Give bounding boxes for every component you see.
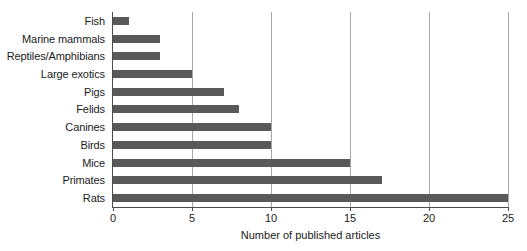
bar-row bbox=[113, 33, 508, 45]
bar-row bbox=[113, 139, 508, 151]
y-axis-label-rats: Rats bbox=[83, 192, 109, 204]
x-tick-label-20: 20 bbox=[423, 212, 435, 225]
bar-felids bbox=[113, 105, 239, 113]
gridline-25 bbox=[508, 12, 509, 207]
x-tick-mark-5 bbox=[192, 207, 193, 211]
bar-mice bbox=[113, 159, 350, 167]
y-axis-label-mice: Mice bbox=[82, 157, 109, 169]
y-axis-label-primates: Primates bbox=[62, 174, 109, 186]
x-tick-label-25: 25 bbox=[502, 212, 514, 225]
bar-row bbox=[113, 86, 508, 98]
bar-chart: Fish Marine mammals Reptiles/Amphibians … bbox=[0, 0, 527, 251]
bar-large-exotics bbox=[113, 70, 192, 78]
x-axis-title: Number of published articles bbox=[113, 229, 508, 242]
x-tick-label-15: 15 bbox=[344, 212, 356, 225]
y-axis-label-reptiles-amphibians: Reptiles/Amphibians bbox=[7, 50, 109, 62]
y-axis-label-canines: Canines bbox=[65, 121, 109, 133]
x-tick-label-0: 0 bbox=[110, 212, 116, 225]
bar-marine-mammals bbox=[113, 35, 160, 43]
bar-primates bbox=[113, 176, 382, 184]
bar-row bbox=[113, 157, 508, 169]
bar-row bbox=[113, 174, 508, 186]
bar-row bbox=[113, 121, 508, 133]
plot-wrapper: Fish Marine mammals Reptiles/Amphibians … bbox=[0, 0, 527, 251]
bar-reptiles-amphibians bbox=[113, 52, 160, 60]
bar-row bbox=[113, 50, 508, 62]
y-axis-label-pigs: Pigs bbox=[84, 86, 109, 98]
bar-birds bbox=[113, 141, 271, 149]
bar-row bbox=[113, 68, 508, 80]
y-axis-label-fish: Fish bbox=[85, 15, 109, 27]
y-axis-label-felids: Felids bbox=[76, 103, 109, 115]
y-axis-label-large-exotics: Large exotics bbox=[41, 68, 109, 80]
bar-fish bbox=[113, 17, 129, 25]
x-tick-mark-25 bbox=[508, 207, 509, 211]
bar-row bbox=[113, 15, 508, 27]
y-axis-label-birds: Birds bbox=[80, 139, 109, 151]
x-tick-mark-10 bbox=[271, 207, 272, 211]
x-tick-mark-0 bbox=[113, 207, 114, 211]
x-tick-label-5: 5 bbox=[189, 212, 195, 225]
bar-canines bbox=[113, 123, 271, 131]
y-axis-category-labels: Fish Marine mammals Reptiles/Amphibians … bbox=[0, 12, 109, 207]
bar-rats bbox=[113, 194, 508, 202]
bar-series bbox=[113, 12, 508, 207]
x-tick-mark-15 bbox=[350, 207, 351, 211]
bar-pigs bbox=[113, 88, 224, 96]
bar-row bbox=[113, 192, 508, 204]
y-axis-label-marine-mammals: Marine mammals bbox=[22, 33, 109, 45]
bar-row bbox=[113, 103, 508, 115]
x-axis-line bbox=[112, 207, 509, 208]
plot-area bbox=[113, 12, 508, 207]
x-tick-label-10: 10 bbox=[265, 212, 277, 225]
x-tick-mark-20 bbox=[429, 207, 430, 211]
